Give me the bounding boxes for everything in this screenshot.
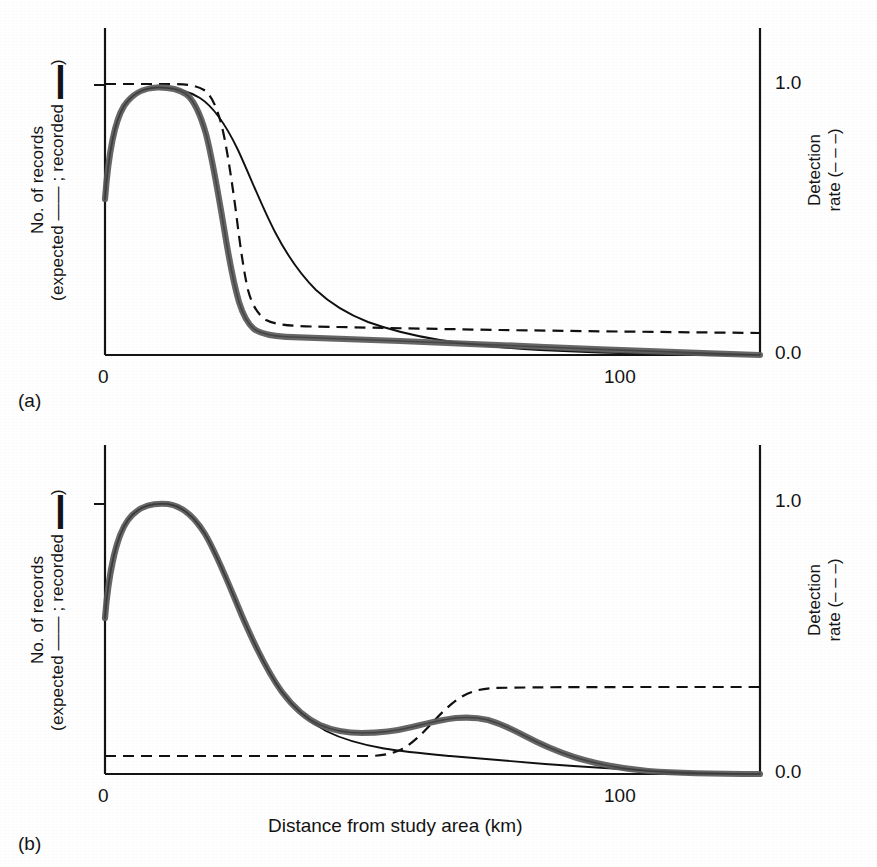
panel-b-xtick-100: 100: [604, 785, 636, 807]
panel-b-series-recorded: [105, 504, 760, 774]
panel-b-series-recorded-highlight: [105, 504, 760, 774]
chart-panel-a: No. of records (expected —— ; recorded ▬…: [0, 0, 877, 432]
panel-a-xtick-0: 0: [98, 366, 109, 388]
panel-b-series-expected: [105, 504, 760, 774]
figure-root: No. of records (expected —— ; recorded ▬…: [0, 0, 877, 867]
panel-a-ytick-right-0.0: 0.0: [775, 342, 801, 364]
panel-b-tag: (b): [18, 833, 41, 855]
panel-b-plot-svg: [0, 420, 877, 867]
panel-a-xtick-100: 100: [604, 366, 636, 388]
panel-a-tag: (a): [18, 390, 41, 412]
panel-a-ytick-right-1.0: 1.0: [775, 72, 801, 94]
panel-b-xtick-0: 0: [98, 785, 109, 807]
panel-a-plot-svg: [0, 0, 877, 432]
chart-panel-b: No. of records (expected —— ; recorded ▬…: [0, 420, 877, 867]
panel-b-ytick-right-0.0: 0.0: [775, 761, 801, 783]
panel-b-ytick-right-1.0: 1.0: [775, 490, 801, 512]
panel-a-series-recorded-highlight: [105, 87, 760, 355]
panel-b-x-axis-title: Distance from study area (km): [268, 815, 522, 837]
